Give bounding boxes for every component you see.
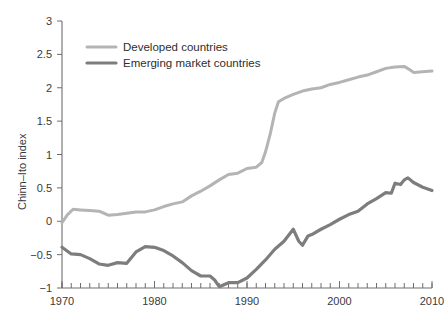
x-tick-label: 2010: [420, 295, 444, 307]
y-tick-label: −0.5: [30, 249, 52, 261]
legend-label-developed-countries: Developed countries: [123, 41, 228, 53]
legend-label-emerging-market-countries: Emerging market countries: [123, 57, 261, 69]
x-tick-label: 2000: [327, 295, 351, 307]
x-tick-label: 1980: [142, 295, 166, 307]
series-line-emerging-market-countries: [62, 178, 432, 287]
y-axis-tick-labels: 32.521.510.50−0.5−1: [30, 15, 52, 294]
x-axis-tick-labels: 19701980199020002010: [50, 295, 444, 307]
chinn-ito-index-chart: 32.521.510.50−0.5−1 19701980199020002010…: [0, 0, 445, 324]
y-tick-label: 2: [46, 82, 52, 94]
x-tick-label: 1990: [235, 295, 259, 307]
chart-legend: Developed countries Emerging market coun…: [87, 41, 261, 69]
y-tick-label: 1: [46, 149, 52, 161]
y-axis: 32.521.510.50−0.5−1: [30, 15, 62, 294]
chart-plot-area: 32.521.510.50−0.5−1 19701980199020002010…: [0, 0, 445, 324]
y-tick-label: −1: [39, 282, 52, 294]
y-tick-label: 1.5: [37, 115, 52, 127]
y-tick-label: 0: [46, 215, 52, 227]
y-axis-title: Chinn–Ito index: [16, 133, 28, 210]
y-tick-label: 2.5: [37, 48, 52, 60]
x-axis: 19701980199020002010: [50, 281, 444, 307]
data-series-group: [62, 66, 432, 286]
y-tick-label: 3: [46, 15, 52, 27]
y-tick-label: 0.5: [37, 182, 52, 194]
x-tick-label: 1970: [50, 295, 74, 307]
